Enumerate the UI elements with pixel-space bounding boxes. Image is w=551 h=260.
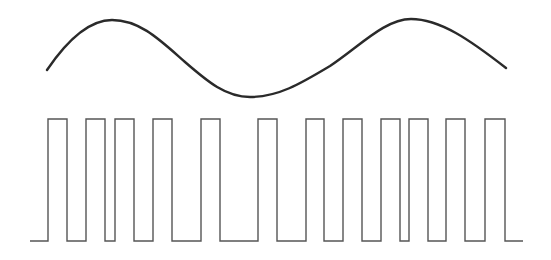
square-wave-pulse-train (30, 119, 523, 241)
pwm-diagram (0, 0, 551, 260)
sine-wave (47, 19, 506, 97)
